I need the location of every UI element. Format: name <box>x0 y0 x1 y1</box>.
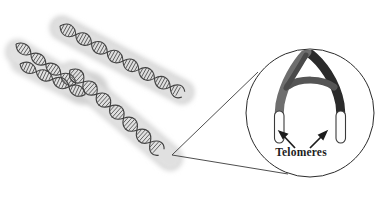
telomere-diagram: Telomeres <box>0 0 379 200</box>
telomeres-label: Telomeres <box>266 146 336 158</box>
telomere-cap-right <box>336 111 346 143</box>
chromosome-x-shape <box>13 20 187 158</box>
diagram-canvas <box>0 0 379 200</box>
